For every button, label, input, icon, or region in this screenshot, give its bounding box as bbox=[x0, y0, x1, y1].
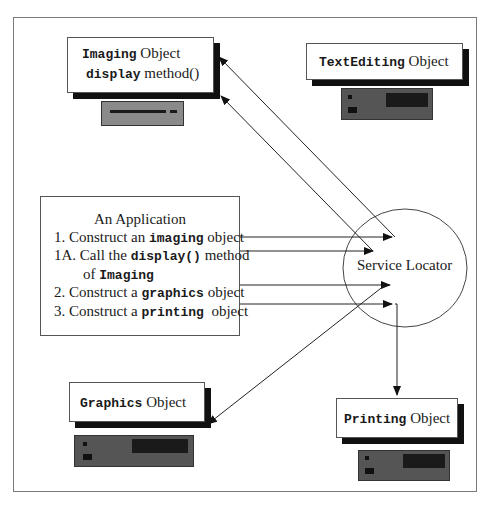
printing-class-name: Printing bbox=[344, 412, 406, 427]
step-3: 3. Construct a printing object bbox=[41, 303, 239, 322]
textediting-object-box: TextEditing Object bbox=[306, 43, 463, 80]
imaging-object-box: Imaging Object display method() bbox=[67, 37, 214, 93]
printing-object-box: Printing Object bbox=[336, 398, 458, 438]
printing-device-icon bbox=[358, 450, 450, 481]
step-1: 1. Construct an imaging object bbox=[41, 229, 239, 248]
imaging-device-icon bbox=[101, 101, 184, 126]
application-box: An Application 1. Construct an imaging o… bbox=[40, 196, 240, 336]
step-1a: 1A. Call the display() method bbox=[41, 247, 239, 266]
step-1a-cont: of Imaging bbox=[41, 266, 239, 285]
step-2: 2. Construct a graphics object bbox=[41, 284, 239, 303]
textediting-device-icon bbox=[341, 88, 433, 120]
textediting-class-name: TextEditing bbox=[319, 55, 405, 70]
application-title: An Application bbox=[41, 211, 239, 229]
service-locator-label: Service Locator bbox=[357, 257, 452, 274]
graphics-device-icon bbox=[74, 435, 194, 467]
imaging-class-name: Imaging bbox=[82, 47, 137, 62]
graphics-object-box: Graphics Object bbox=[69, 382, 205, 422]
graphics-class-name: Graphics bbox=[80, 396, 142, 411]
display-method-name: display bbox=[86, 67, 141, 82]
